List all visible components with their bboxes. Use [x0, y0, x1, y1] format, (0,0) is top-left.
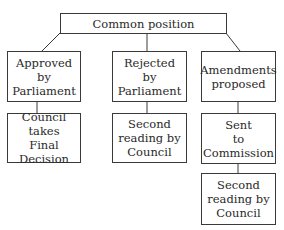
flowchart: Common position Approved by Parliament R… — [0, 0, 284, 230]
node-sent-to-commission: Sent to Commission — [201, 113, 276, 164]
node-council-final-decision: Council takes Final Decision — [7, 113, 81, 163]
node-second-reading-by-council-after-commission: Second reading by Council — [201, 173, 276, 225]
node-label: Rejected by Parliament — [118, 56, 182, 98]
connector-root-to-approved — [42, 33, 60, 51]
root-node-label: Common position — [92, 17, 194, 31]
node-label: Amendments proposed — [200, 63, 276, 91]
node-amendments-proposed: Amendments proposed — [201, 51, 276, 102]
connector-root-to-amendments — [226, 33, 240, 51]
node-label: Second reading by Council — [118, 117, 180, 159]
node-rejected-by-parliament: Rejected by Parliament — [112, 51, 187, 102]
node-label: Approved by Parliament — [12, 56, 76, 98]
root-node-common-position: Common position — [60, 13, 227, 34]
node-second-reading-by-council: Second reading by Council — [112, 113, 187, 163]
node-label: Council takes Final Decision — [8, 110, 80, 166]
node-label: Second reading by Council — [207, 178, 269, 220]
node-label: Sent to Commission — [203, 118, 274, 160]
node-approved-by-parliament: Approved by Parliament — [7, 51, 81, 102]
